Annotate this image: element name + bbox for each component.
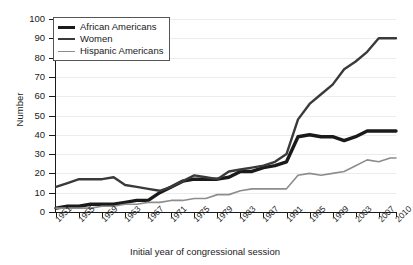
series-line-african-americans — [56, 131, 396, 208]
y-axis-tick-label: 10 — [0, 187, 45, 198]
legend-label-women: Women — [80, 33, 113, 45]
y-axis-tick — [49, 212, 55, 213]
y-axis-tick-label: 30 — [0, 148, 45, 159]
y-axis-tick — [49, 193, 55, 194]
legend-item-women: Women — [58, 33, 163, 45]
y-axis-tick-label: 70 — [0, 71, 45, 82]
y-axis-tick-label: 60 — [0, 90, 45, 101]
legend-item-african-americans: African Americans — [58, 21, 163, 33]
y-axis-tick-label: 20 — [0, 167, 45, 178]
y-axis-tick — [49, 116, 55, 117]
y-axis-tick-label: 90 — [0, 32, 45, 43]
x-axis-title: Initial year of congressional session — [0, 246, 410, 257]
series-line-women — [56, 38, 396, 190]
legend-swatch-women — [58, 38, 75, 40]
series-line-hispanic-americans — [56, 158, 396, 208]
y-axis-tick — [49, 154, 55, 155]
y-axis-tick — [49, 135, 55, 136]
y-axis-tick-label: 40 — [0, 129, 45, 140]
y-axis-tick — [49, 96, 55, 97]
y-axis-tick-label: 0 — [0, 206, 45, 217]
legend-item-hispanic-americans: Hispanic Americans — [58, 45, 163, 57]
y-axis-tick-label: 50 — [0, 110, 45, 121]
y-axis-tick-label: 100 — [0, 13, 45, 24]
legend: African Americans Women Hispanic America… — [53, 17, 170, 61]
y-axis-tick-label: 80 — [0, 52, 45, 63]
x-axis-tick-label: 2010 — [393, 204, 413, 224]
legend-swatch-african-americans — [58, 26, 75, 29]
legend-swatch-hispanic-americans — [58, 51, 75, 52]
y-axis-tick — [49, 173, 55, 174]
y-axis-tick — [49, 77, 55, 78]
legend-label-african-americans: African Americans — [80, 21, 157, 33]
legend-label-hispanic-americans: Hispanic Americans — [80, 45, 163, 57]
